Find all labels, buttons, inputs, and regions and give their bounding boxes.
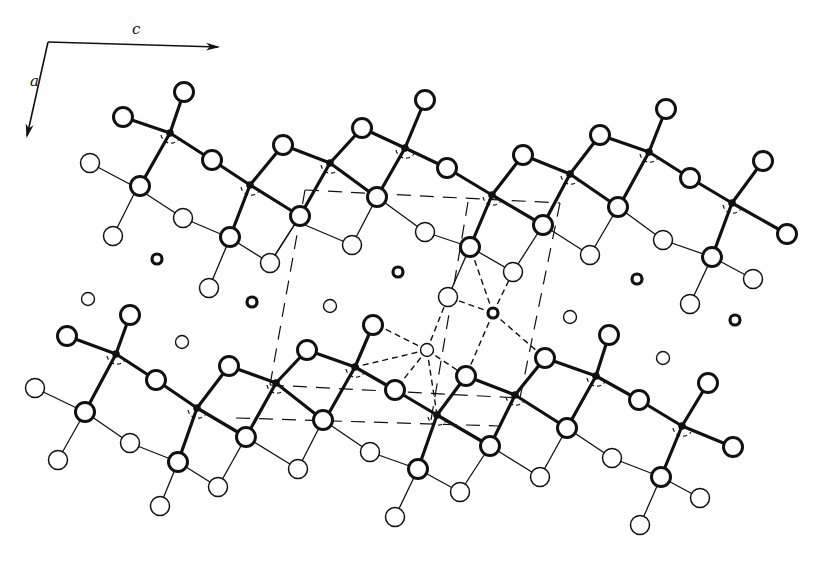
oxygen-atom-lower	[691, 489, 710, 508]
central-atom	[166, 129, 174, 137]
oxygen-atom-upper	[630, 391, 649, 410]
small-atom	[421, 344, 434, 357]
oxygen-atom-upper	[652, 468, 671, 487]
oxygen-atom-upper	[274, 136, 293, 155]
oxygen-atom-lower	[631, 516, 650, 535]
oxygen-atom-upper	[416, 91, 435, 110]
cation-atom	[730, 315, 740, 325]
cation-atom	[247, 297, 257, 307]
oxygen-atom-upper	[314, 411, 333, 430]
oxygen-atom-upper	[724, 438, 743, 457]
central-atom	[401, 144, 409, 152]
oxygen-atom-upper	[438, 159, 457, 178]
oxygen-atom-upper	[457, 367, 476, 386]
oxygen-atom-upper	[114, 108, 133, 127]
central-atom	[645, 148, 653, 156]
oxygen-atom-lower	[26, 379, 45, 398]
upper-layer-bonds	[67, 92, 787, 477]
small-atom	[564, 311, 577, 324]
oxygen-atom-lower	[386, 508, 405, 527]
oxygen-atom-upper	[754, 152, 773, 171]
c-axis-arrow	[48, 42, 218, 47]
central-atom	[246, 181, 254, 189]
oxygen-atom-upper	[121, 306, 140, 325]
oxygen-atom-lower	[361, 443, 380, 462]
oxygen-atom-lower	[49, 451, 68, 470]
oxygen-atom-upper	[461, 238, 480, 257]
oxygen-atom-upper	[534, 216, 553, 235]
central-atom	[488, 191, 496, 199]
oxygen-atom-lower	[209, 478, 228, 497]
central-atom	[112, 350, 120, 358]
oxygen-atom-upper	[221, 228, 240, 247]
oxygen-atom-upper	[169, 453, 188, 472]
oxygen-atom-lower	[681, 295, 700, 314]
central-atom	[351, 363, 359, 371]
unit-cell-edge	[305, 190, 560, 203]
central-atom	[326, 159, 334, 167]
thick-bond	[620, 152, 649, 205]
oxygen-atom-lower	[531, 468, 550, 487]
oxygen-atom-lower	[603, 449, 622, 468]
oxygen-atom-lower	[261, 254, 280, 273]
coordination-bond	[355, 350, 427, 367]
central-atom	[592, 372, 600, 380]
oxygen-atom-lower	[289, 460, 308, 479]
oxygen-atom-upper	[175, 83, 194, 102]
cation-atom	[632, 274, 642, 284]
axis-label-c: c	[132, 20, 140, 38]
oxygen-atom-lower	[104, 227, 123, 246]
cation-atom	[393, 267, 403, 277]
small-atom	[657, 352, 670, 365]
structure-svg	[0, 0, 820, 562]
oxygen-atom-upper	[600, 326, 619, 345]
small-atom	[176, 336, 189, 349]
oxygen-atom-upper	[778, 225, 797, 244]
oxygen-atom-upper	[237, 428, 256, 447]
oxygen-atom-lower	[744, 270, 763, 289]
oxygen-atom-upper	[364, 316, 383, 335]
oxygen-atom-upper	[609, 198, 628, 217]
unit-cell-edge	[236, 418, 498, 426]
central-atom	[728, 199, 736, 207]
central-atom	[433, 411, 441, 419]
cation-atom	[488, 308, 498, 318]
oxygen-atom-lower	[81, 154, 100, 173]
central-atom	[511, 391, 519, 399]
oxygen-atom-upper	[203, 151, 222, 170]
oxygen-atom-upper	[481, 437, 500, 456]
oxygen-atom-lower	[121, 434, 140, 453]
oxygen-atom-lower	[416, 223, 435, 242]
central-atom	[566, 170, 574, 178]
small-atom	[324, 300, 337, 313]
oxygen-atom-upper	[147, 371, 166, 390]
oxygen-atom-upper	[558, 419, 577, 438]
central-atom	[272, 379, 280, 387]
oxygen-atom-lower	[581, 246, 600, 265]
oxygen-atom-upper	[703, 248, 722, 267]
small-atom	[82, 293, 95, 306]
oxygen-atom-upper	[368, 188, 387, 207]
oxygen-atom-upper	[131, 177, 150, 196]
oxygen-atom-lower	[439, 288, 458, 307]
oxygen-atom-upper	[657, 100, 676, 119]
crystal-structure-diagram: c a	[0, 0, 820, 562]
coordination-bond	[377, 325, 427, 350]
lower-layer-bonds	[35, 163, 753, 525]
oxygen-atom-upper	[681, 169, 700, 188]
oxygen-atom-lower	[200, 279, 219, 298]
oxygen-atom-upper	[699, 374, 718, 393]
oxygen-atom-upper	[58, 327, 77, 346]
oxygen-atom-upper	[353, 119, 372, 138]
oxygen-atom-upper	[76, 403, 95, 422]
oxygen-atom-upper	[291, 207, 310, 226]
oxygen-atom-lower	[654, 231, 673, 250]
oxygen-atom-lower	[343, 236, 362, 255]
oxygen-atom-lower	[504, 263, 523, 282]
oxygen-atom-upper	[536, 349, 555, 368]
central-atom	[193, 404, 201, 412]
cation-atom	[152, 254, 162, 264]
oxygen-atom-lower	[174, 209, 193, 228]
axis-label-a: a	[30, 72, 39, 90]
oxygen-atom-upper	[386, 381, 405, 400]
